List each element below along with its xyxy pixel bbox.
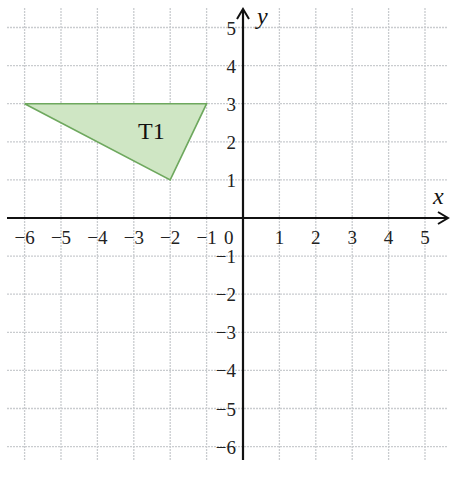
origin-label: 0 xyxy=(224,227,234,248)
x-tick-label: −5 xyxy=(51,227,71,248)
y-tick-label: −1 xyxy=(216,246,236,267)
x-tick-label: 1 xyxy=(275,227,285,248)
y-tick-label: 2 xyxy=(227,132,237,153)
x-tick-label: 5 xyxy=(420,227,430,248)
x-tick-label: −2 xyxy=(160,227,180,248)
tick-labels: −6−5−4−3−2−11234554321−1−2−3−4−5−6 xyxy=(14,18,429,458)
y-tick-label: −3 xyxy=(216,322,236,343)
x-axis-label: x xyxy=(432,183,444,209)
x-tick-label: −3 xyxy=(124,227,144,248)
triangle-t1 xyxy=(25,104,207,180)
y-axis-label: y xyxy=(255,3,268,29)
y-tick-label: 3 xyxy=(227,94,237,115)
y-tick-label: −4 xyxy=(216,360,237,381)
y-tick-label: 4 xyxy=(227,56,237,77)
x-tick-label: −6 xyxy=(14,227,34,248)
y-tick-label: −2 xyxy=(216,284,236,305)
x-tick-label: 3 xyxy=(347,227,357,248)
x-tick-label: 2 xyxy=(311,227,321,248)
shape-label-t1: T1 xyxy=(138,118,165,144)
y-tick-label: −5 xyxy=(216,399,236,420)
coordinate-grid: −6−5−4−3−2−11234554321−1−2−3−4−5−6 x y 0… xyxy=(0,0,456,478)
y-tick-label: 5 xyxy=(227,18,237,39)
x-tick-label: −1 xyxy=(196,227,216,248)
x-tick-label: −4 xyxy=(87,227,108,248)
x-tick-label: 4 xyxy=(384,227,394,248)
y-tick-label: 1 xyxy=(227,170,237,191)
triangle-t1-polygon xyxy=(25,104,207,180)
y-tick-label: −6 xyxy=(216,437,236,458)
